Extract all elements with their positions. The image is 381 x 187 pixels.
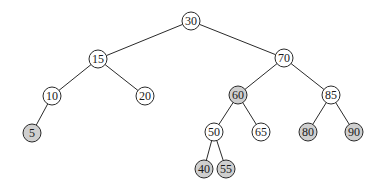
tree-node-15: 15 [89, 50, 107, 68]
tree-node-50: 50 [205, 123, 223, 141]
edge-70-60 [245, 64, 277, 90]
edge-10-5 [36, 104, 47, 125]
tree-node-90: 90 [345, 123, 363, 141]
node-label: 15 [92, 52, 104, 66]
edge-30-70 [199, 24, 275, 54]
node-label: 5 [29, 126, 35, 140]
tree-node-70: 70 [275, 49, 293, 67]
tree-node-80: 80 [299, 123, 317, 141]
edge-60-65 [243, 103, 256, 125]
edge-15-10 [59, 65, 91, 91]
edge-70-85 [291, 64, 324, 90]
node-label: 50 [208, 125, 220, 139]
tree-node-60: 60 [229, 86, 247, 104]
node-label: 40 [198, 162, 210, 176]
tree-canvas: 301570102060855506580904055 [0, 0, 381, 187]
tree-node-30: 30 [182, 12, 200, 30]
edge-85-90 [336, 103, 349, 125]
edge-85-80 [313, 103, 326, 125]
node-label: 65 [255, 125, 267, 139]
node-label: 70 [278, 51, 290, 65]
tree-node-40: 40 [195, 160, 213, 178]
node-label: 80 [302, 125, 314, 139]
edge-50-40 [206, 141, 211, 161]
node-layer: 301570102060855506580904055 [23, 12, 363, 178]
node-label: 85 [325, 88, 337, 102]
node-label: 55 [220, 162, 232, 176]
tree-node-20: 20 [136, 87, 154, 105]
node-label: 30 [185, 14, 197, 28]
edge-layer [36, 24, 349, 160]
edge-30-15 [106, 24, 182, 55]
edge-50-55 [217, 141, 223, 161]
node-label: 10 [46, 89, 58, 103]
node-label: 20 [139, 89, 151, 103]
tree-node-5: 5 [23, 124, 41, 142]
edge-60-50 [219, 103, 233, 125]
node-label: 60 [232, 88, 244, 102]
node-label: 90 [348, 125, 360, 139]
tree-node-65: 65 [252, 123, 270, 141]
tree-node-10: 10 [43, 87, 61, 105]
tree-diagram: 301570102060855506580904055 [0, 0, 381, 187]
edge-15-20 [105, 65, 138, 91]
tree-node-55: 55 [217, 160, 235, 178]
tree-node-85: 85 [322, 86, 340, 104]
